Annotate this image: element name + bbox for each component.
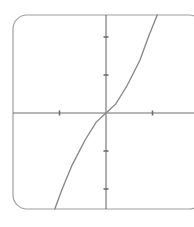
function-plot <box>0 0 194 227</box>
plot-frame <box>13 15 194 209</box>
